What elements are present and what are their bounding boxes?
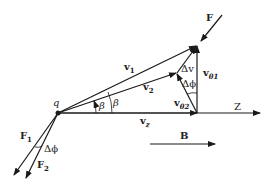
f1-label: F1 <box>20 131 32 143</box>
beta-arc-inner <box>94 101 96 113</box>
charge-label: q <box>53 98 59 108</box>
beta-inner-label: β <box>99 101 105 111</box>
charge-point <box>56 111 61 116</box>
v1-label: v1 <box>124 62 135 74</box>
v-theta1-label: vθ1 <box>203 68 218 80</box>
delta-phi-top-label: Δϕ <box>182 79 196 89</box>
z-axis-label: Z <box>234 102 241 112</box>
force-label: F <box>206 13 213 23</box>
vector-diagram <box>0 0 273 182</box>
delta-phi-bottom-label: Δϕ <box>44 144 58 154</box>
f2-label: F2 <box>37 160 49 172</box>
field-b-label: B <box>180 131 188 141</box>
delta-phi-arc-top <box>187 93 197 94</box>
delta-v-label: Δv <box>181 64 194 74</box>
v2-label: v2 <box>143 82 154 94</box>
beta-outer-label: β <box>113 98 119 108</box>
v-theta2-label: vθ2 <box>174 98 189 110</box>
vz-label: vz <box>140 116 150 128</box>
